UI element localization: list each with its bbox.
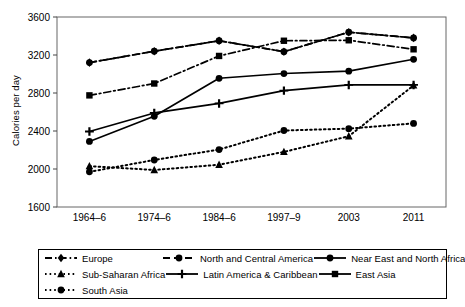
legend-item-europe[interactable]: Europe — [44, 250, 113, 266]
legend-marker-circle-icon — [44, 284, 78, 296]
data-point-circle — [176, 255, 183, 262]
data-point-circle — [216, 75, 223, 82]
data-point-circle — [410, 35, 417, 42]
y-tick-label: 2000 — [28, 164, 51, 175]
y-tick-label: 3600 — [28, 12, 51, 23]
x-tick-label: 2011 — [403, 212, 425, 223]
y-tick-label: 2400 — [28, 126, 51, 137]
legend-marker-circle-icon — [313, 252, 347, 264]
y-tick-label: 3200 — [28, 50, 51, 61]
legend-label: South Asia — [82, 285, 128, 296]
plot-area: 3600320028002400200016001964–61974–61984… — [0, 0, 457, 245]
legend-row-2: Sub-Saharan AfricaLatin America & Caribb… — [39, 266, 446, 282]
data-point-circle — [410, 56, 417, 63]
x-tick-label: 1984–6 — [202, 212, 236, 223]
data-point-circle — [281, 70, 288, 77]
data-point-square — [281, 38, 287, 44]
data-point-square — [216, 53, 222, 59]
data-point-circle — [281, 127, 288, 134]
legend-marker-circle-icon — [162, 252, 196, 264]
data-point-square — [151, 80, 157, 86]
legend-item-latin-america-caribbean[interactable]: Latin America & Caribbean — [165, 266, 317, 282]
series-line — [89, 59, 413, 141]
series-latin-america-caribbean — [85, 81, 418, 136]
legend-item-sub-saharan-africa[interactable]: Sub-Saharan Africa — [44, 266, 165, 282]
data-point-plus — [215, 99, 224, 107]
series-near-east-and-north-africa — [86, 56, 417, 145]
data-point-circle — [327, 255, 334, 262]
legend-label: Latin America & Caribbean — [203, 269, 317, 280]
legend-row-3: South Asia — [39, 282, 446, 298]
x-tick-label: 1997–9 — [267, 212, 301, 223]
legend-item-near-east-and-north-africa[interactable]: Near East and North Africa — [313, 250, 465, 266]
series-south-asia — [86, 120, 417, 175]
data-point-circle — [86, 168, 93, 175]
data-point-triangle — [86, 162, 94, 169]
data-point-circle — [410, 120, 417, 127]
legend-label: Europe — [82, 253, 113, 264]
data-point-circle — [345, 68, 352, 75]
series-line — [89, 32, 413, 62]
data-point-circle — [216, 146, 223, 153]
data-point-plus — [344, 81, 353, 89]
series-europe — [86, 28, 417, 67]
data-point-diamond — [58, 254, 65, 263]
legend-label: Sub-Saharan Africa — [82, 269, 165, 280]
data-point-plus — [178, 270, 187, 278]
data-point-circle — [345, 125, 352, 132]
data-point-circle — [216, 37, 223, 44]
legend-marker-plus-icon — [165, 268, 199, 280]
data-point-square — [410, 46, 416, 52]
data-point-circle — [281, 48, 288, 55]
y-tick-label: 2800 — [28, 88, 51, 99]
data-point-circle — [86, 138, 93, 145]
legend-row-1: EuropeNorth and Central AmericaNear East… — [39, 250, 446, 266]
data-point-square — [331, 271, 337, 277]
legend-marker-diamond-icon — [44, 252, 78, 264]
series-line — [89, 32, 413, 62]
legend-item-north-and-central-america[interactable]: North and Central America — [162, 250, 313, 266]
legend-label: North and Central America — [200, 253, 313, 264]
data-point-circle — [151, 157, 158, 164]
data-point-square — [346, 37, 352, 43]
data-point-circle — [345, 29, 352, 36]
data-point-plus — [85, 127, 94, 135]
legend-item-south-asia[interactable]: South Asia — [44, 282, 128, 298]
data-point-circle — [86, 59, 93, 66]
legend-label: East Asia — [356, 269, 396, 280]
legend-item-east-asia[interactable]: East Asia — [318, 266, 396, 282]
y-axis-title: Calories per day — [10, 41, 21, 181]
chart-legend: EuropeNorth and Central AmericaNear East… — [38, 249, 447, 299]
x-tick-label: 1964–6 — [73, 212, 107, 223]
data-point-circle — [58, 287, 65, 294]
legend-label: Near East and North Africa — [351, 253, 465, 264]
x-tick-label: 1974–6 — [138, 212, 172, 223]
data-point-plus — [280, 86, 289, 94]
legend-marker-triangle-icon — [44, 268, 78, 280]
data-point-square — [86, 92, 92, 98]
data-point-circle — [151, 48, 158, 55]
x-tick-label: 2003 — [338, 212, 361, 223]
series-line — [89, 123, 413, 171]
legend-marker-square-icon — [318, 268, 352, 280]
y-tick-label: 1600 — [28, 202, 51, 213]
